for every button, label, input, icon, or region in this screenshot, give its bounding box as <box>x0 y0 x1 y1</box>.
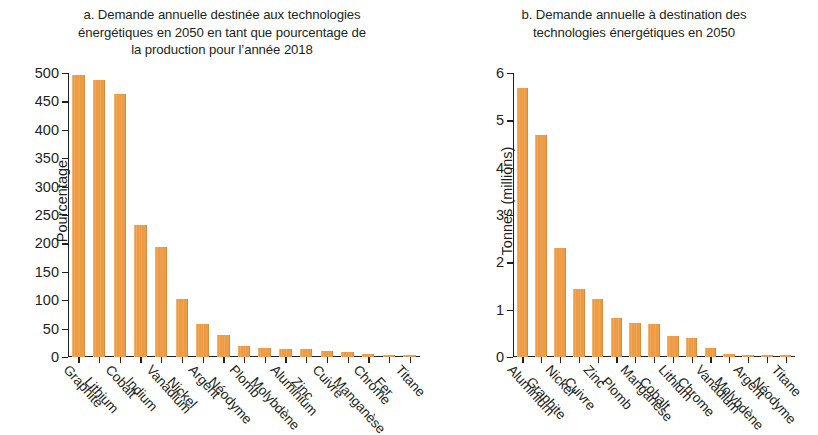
bar-fill <box>629 323 641 357</box>
bar <box>705 348 717 357</box>
bar-fill <box>592 299 604 357</box>
bar-fill <box>155 247 168 357</box>
bar-fill <box>114 94 127 357</box>
bar-fill <box>667 336 679 357</box>
bar-fill <box>134 225 147 357</box>
y-tick-label: 250 <box>35 208 59 223</box>
panel-b-plot-area: Tonnes (millions) 0123456 AluminiumGraph… <box>513 73 795 357</box>
panel-b-bars <box>513 73 795 357</box>
bar-fill <box>300 349 313 357</box>
bar <box>176 299 189 357</box>
bar <box>258 348 271 357</box>
bar <box>573 289 585 357</box>
figure: a. Demande annuelle destinée aux technol… <box>0 0 818 435</box>
bar-fill <box>573 289 585 357</box>
bar <box>554 248 566 357</box>
bar <box>667 336 679 357</box>
panel-a-plot-area: Pourcentage 0501001502002503003504004505… <box>68 73 420 357</box>
panel-b-x-tick-labels: AluminiumGraphiteNickelCuivreZincPlombMa… <box>513 357 795 435</box>
bar <box>93 80 106 357</box>
bar <box>134 225 147 357</box>
bar-fill <box>648 324 660 357</box>
bar <box>238 346 251 357</box>
bar-fill <box>93 80 106 357</box>
y-tick-label: 100 <box>35 293 59 308</box>
y-tick-label: 150 <box>35 265 59 280</box>
bar <box>686 338 698 357</box>
bar <box>629 323 641 357</box>
bar-fill <box>705 348 717 357</box>
bar <box>279 349 292 357</box>
bar <box>155 247 168 357</box>
y-tick-label: 450 <box>35 94 59 109</box>
bar-fill <box>686 338 698 357</box>
y-tick-label: 3 <box>496 208 504 223</box>
chart-panel-a: a. Demande annuelle destinée aux technol… <box>0 0 436 435</box>
bar <box>535 135 547 357</box>
bar-fill <box>611 318 623 357</box>
y-tick-label: 350 <box>35 151 59 166</box>
bar-fill <box>217 335 230 357</box>
bar-fill <box>72 75 85 357</box>
y-tick-label: 0 <box>51 350 59 365</box>
y-tick-label: 0 <box>496 350 504 365</box>
y-tick-label: 1 <box>496 302 504 317</box>
bar <box>592 299 604 357</box>
bar <box>611 318 623 357</box>
y-tick-label: 200 <box>35 236 59 251</box>
y-tick-label: 500 <box>35 66 59 81</box>
bar-fill <box>238 346 251 357</box>
y-tick-label: 5 <box>496 113 504 128</box>
panel-a-bars <box>68 73 420 357</box>
y-tick-label: 50 <box>43 321 59 336</box>
bar-fill <box>535 135 547 357</box>
bar-fill <box>176 299 189 357</box>
panel-b-title: b. Demande annuelle à destination des te… <box>436 6 818 41</box>
bar-fill <box>258 348 271 357</box>
bar <box>217 335 230 357</box>
bar <box>300 349 313 357</box>
y-tick-label: 6 <box>496 66 504 81</box>
bar <box>648 324 660 357</box>
bar-fill <box>517 88 529 357</box>
y-tick-label: 400 <box>35 123 59 138</box>
bar-fill <box>279 349 292 357</box>
bar-fill <box>196 324 209 357</box>
panel-a-x-tick-labels: GraphiteLithiumCobaltIndiumVanadiumNicke… <box>68 357 420 435</box>
bar <box>72 75 85 357</box>
chart-panel-b: b. Demande annuelle à destination des te… <box>436 0 818 435</box>
panel-a-title: a. Demande annuelle destinée aux technol… <box>0 6 436 59</box>
x-tick-label: Titane <box>393 363 427 399</box>
y-tick-label: 4 <box>496 160 504 175</box>
bar <box>114 94 127 357</box>
bar <box>517 88 529 357</box>
bar-fill <box>554 248 566 357</box>
bar <box>196 324 209 357</box>
y-tick-label: 2 <box>496 255 504 270</box>
y-tick-label: 300 <box>35 179 59 194</box>
